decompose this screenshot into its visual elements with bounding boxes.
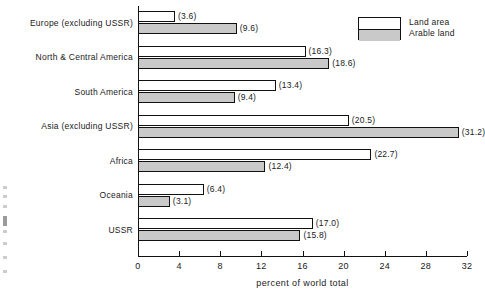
bar-value-label: (3.1): [173, 196, 191, 207]
category-label: North & Central America: [5, 52, 133, 62]
bar-value-label: (9.4): [238, 92, 256, 103]
x-axis-tick-label: 8: [218, 261, 223, 271]
bar-value-label: (31.2): [462, 127, 485, 138]
legend-label-land-area: Land area: [409, 17, 450, 28]
bar-value-label: (22.7): [374, 149, 397, 160]
x-axis-tick: [220, 251, 221, 256]
bar-arable-land: [138, 161, 265, 172]
category-label: Europe (excluding USSR): [5, 18, 133, 28]
bar-land-area: [138, 80, 276, 91]
x-axis-tick-label: 4: [176, 261, 181, 271]
bar-value-label: (15.8): [303, 230, 326, 241]
bar-arable-land: [138, 23, 237, 34]
bar-land-area: [138, 115, 349, 126]
x-axis-tick-label: 0: [135, 261, 140, 271]
legend-label-arable-land: Arable land: [409, 28, 455, 39]
bar-arable-land: [138, 196, 170, 207]
x-axis-tick-label: 28: [421, 261, 432, 271]
bar-arable-land: [138, 230, 300, 241]
x-axis-tick-label: 16: [297, 261, 308, 271]
x-axis-tick: [261, 251, 262, 256]
x-axis-tick-label: 20: [338, 261, 349, 271]
category-label: Asia (excluding USSR): [5, 121, 133, 131]
x-axis-tick: [179, 251, 180, 256]
x-axis-tick-label: 24: [379, 261, 390, 271]
bar-land-area: [138, 149, 371, 160]
bar-value-label: (12.4): [268, 161, 291, 172]
legend-swatch-group: [358, 17, 401, 40]
bar-value-label: (3.6): [178, 11, 196, 22]
bar-value-label: (13.4): [279, 80, 302, 91]
x-axis-tick: [138, 251, 139, 256]
bar-arable-land: [138, 58, 329, 69]
bar-value-label: (18.6): [332, 58, 355, 69]
category-label: Africa: [5, 156, 133, 166]
bar-arable-land: [138, 127, 459, 138]
bar-land-area: [138, 184, 204, 195]
bar-value-label: (9.6): [240, 23, 258, 34]
x-axis-tick-label: 12: [256, 261, 267, 271]
bar-arable-land: [138, 92, 235, 103]
bar-value-label: (20.5): [352, 115, 375, 126]
bar-value-label: (17.0): [316, 218, 339, 229]
bar-land-area: [138, 11, 175, 22]
bar-value-label: (6.4): [207, 184, 225, 195]
x-axis-tick: [344, 251, 345, 256]
x-axis-title: percent of world total: [138, 278, 467, 288]
category-axis-labels: Europe (excluding USSR)North & Central A…: [0, 0, 133, 298]
x-axis-tick: [385, 251, 386, 256]
bar-land-area: [138, 218, 313, 229]
bar-land-area: [138, 46, 306, 57]
legend-swatch-arable-land: [359, 29, 400, 41]
x-axis-tick-label: 32: [462, 261, 473, 271]
category-label: South America: [5, 87, 133, 97]
category-label: USSR: [5, 225, 133, 235]
x-axis-tick: [303, 251, 304, 256]
bar-value-label: (16.3): [309, 46, 332, 57]
x-axis-line: [138, 256, 467, 257]
page-margin-artifact: [3, 186, 7, 278]
x-axis-tick: [426, 251, 427, 256]
x-axis-tick: [467, 251, 468, 256]
category-label: Oceania: [5, 190, 133, 200]
